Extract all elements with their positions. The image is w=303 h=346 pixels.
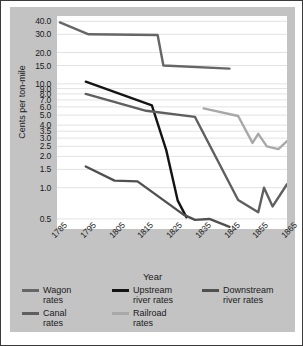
y-tick-label: 15.0 (35, 62, 51, 70)
series-line (204, 108, 287, 149)
chart-svg (57, 16, 287, 229)
y-tick-label: 30.0 (35, 30, 51, 38)
y-tick-label: 1.5 (40, 165, 51, 173)
series-line (86, 94, 287, 212)
legend-swatch-icon (22, 312, 39, 315)
legend-label: Upstream river rates (133, 285, 173, 305)
x-axis-title: Year (10, 271, 295, 282)
legend-row: Wagon ratesUpstream river ratesDownstrea… (22, 285, 295, 305)
legend-swatch-icon (202, 289, 219, 292)
y-tick-label: 2.5 (40, 142, 51, 150)
y-axis-tick-labels: 40.030.020.015.010.09.08.07.06.05.04.03.… (10, 16, 54, 229)
legend-swatch-icon (112, 289, 129, 292)
y-tick-label: 5.0 (40, 111, 51, 119)
series-line (86, 166, 230, 226)
chart-frame: Cents per ton-mile 40.030.020.015.010.09… (0, 0, 303, 346)
legend-item[interactable]: Canal rates (22, 308, 112, 328)
legend-item[interactable]: Railroad rates (112, 308, 202, 328)
legend-item[interactable]: Wagon rates (22, 285, 112, 305)
legend-label: Railroad rates (133, 308, 167, 328)
legend-row: Canal ratesRailroad rates (22, 308, 295, 328)
y-tick-label: 0.5 (40, 215, 51, 223)
legend-item[interactable]: Upstream river rates (112, 285, 202, 305)
series-line (60, 22, 230, 68)
series-line (86, 82, 187, 218)
y-tick-label: 2.0 (40, 152, 51, 160)
y-tick-label: 1.0 (40, 184, 51, 192)
chart-panel: Cents per ton-mile 40.030.020.015.010.09… (10, 7, 295, 332)
legend-swatch-icon (112, 312, 129, 315)
plot-area (57, 16, 287, 229)
legend-item[interactable]: Downstream river rates (202, 285, 292, 305)
legend-swatch-icon (22, 289, 39, 292)
y-tick-label: 40.0 (35, 17, 51, 25)
legend-label: Canal rates (43, 308, 67, 328)
y-tick-label: 20.0 (35, 49, 51, 57)
legend-label: Downstream river rates (223, 285, 274, 305)
chart-legend: Wagon ratesUpstream river ratesDownstrea… (22, 285, 295, 331)
legend-label: Wagon rates (43, 285, 71, 305)
